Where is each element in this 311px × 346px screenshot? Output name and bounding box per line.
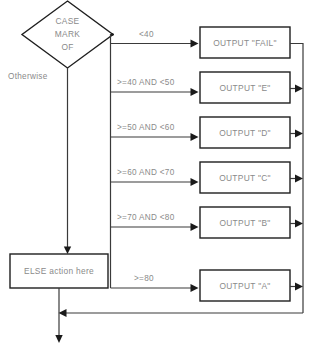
branch-arrowhead-6 xyxy=(191,284,199,292)
exit-arrowhead xyxy=(55,335,62,343)
output-label-fail: OUTPUT "FAIL" xyxy=(213,38,277,48)
branch-arrowhead-3 xyxy=(191,133,199,141)
branch-arrowhead-1 xyxy=(191,40,199,48)
branch-condition-5: >=70 AND <80 xyxy=(117,213,175,222)
return-arrowhead-5 xyxy=(295,220,303,228)
else-action-label: ELSE action here xyxy=(24,266,94,276)
branch-arrowhead-5 xyxy=(191,223,199,231)
output-label-c: OUTPUT "C" xyxy=(219,173,271,183)
decision-label-line3: OF xyxy=(61,42,73,52)
return-arrowhead-6 xyxy=(295,283,303,291)
return-arrowhead-2 xyxy=(295,85,303,93)
branch-condition-4: >=60 AND <70 xyxy=(117,168,175,177)
branch-arrowhead-4 xyxy=(191,178,199,186)
merge-arrowhead xyxy=(59,309,67,317)
decision-label-line2: MARK xyxy=(55,29,81,39)
branch-spine xyxy=(111,35,114,289)
flowchart-canvas: CASE MARK OF Otherwise OUTPUT "FAIL" <40… xyxy=(0,0,311,346)
output-label-e: OUTPUT "E" xyxy=(219,83,270,93)
output-label-d: OUTPUT "D" xyxy=(219,128,271,138)
otherwise-arrowhead xyxy=(64,247,71,255)
branch-arrowhead-2 xyxy=(191,88,199,96)
decision-label-line1: CASE xyxy=(55,16,79,26)
output-label-a: OUTPUT "A" xyxy=(219,281,270,291)
spine-junction-dot xyxy=(111,33,114,36)
otherwise-label: Otherwise xyxy=(8,72,48,81)
output-label-b: OUTPUT "B" xyxy=(219,218,270,228)
return-arrowhead-3 xyxy=(295,130,303,138)
branch-condition-2: >=40 AND <50 xyxy=(117,78,175,87)
branch-condition-1: <40 xyxy=(139,30,154,39)
return-arrowhead-4 xyxy=(295,175,303,183)
branch-condition-3: >=50 AND <60 xyxy=(117,123,175,132)
flowchart-svg: CASE MARK OF Otherwise OUTPUT "FAIL" <40… xyxy=(0,0,311,346)
branch-condition-6: >=80 xyxy=(134,274,154,283)
